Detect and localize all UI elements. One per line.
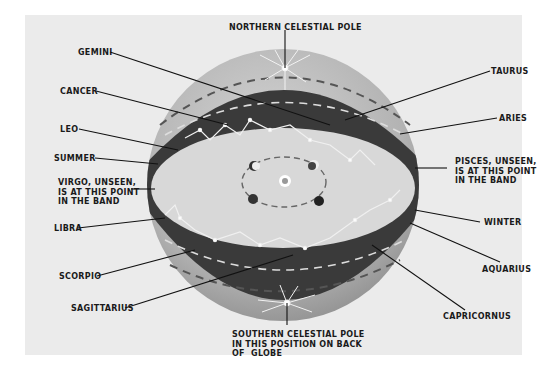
label-leo: LEO xyxy=(60,125,78,135)
label-pisces: PISCES, UNSEEN, IS AT THIS POINT IN THE … xyxy=(455,157,537,186)
label-scorpio: SCORPIO xyxy=(59,272,101,282)
label-north-pole: NORTHERN CELESTIAL POLE xyxy=(229,23,362,33)
label-winter: WINTER xyxy=(484,218,521,228)
sun-icon xyxy=(279,175,291,187)
label-summer: SUMMER xyxy=(54,154,96,164)
label-capricornus: CAPRICORNUS xyxy=(443,312,511,322)
label-cancer: CANCER xyxy=(60,87,98,97)
label-sagittarius: SAGITTARIUS xyxy=(71,304,134,314)
label-south-pole: SOUTHERN CELESTIAL POLE IN THIS POSITION… xyxy=(232,330,365,359)
label-virgo: VIRGO, UNSEEN, IS AT THIS POINT IN THE B… xyxy=(58,178,140,207)
label-libra: LIBRA xyxy=(54,224,82,234)
label-aquarius: AQUARIUS xyxy=(482,265,531,275)
label-taurus: TAURUS xyxy=(491,67,529,77)
inner-plane xyxy=(151,128,415,248)
label-gemini: GEMINI xyxy=(78,48,112,58)
label-aries: ARIES xyxy=(499,114,527,124)
